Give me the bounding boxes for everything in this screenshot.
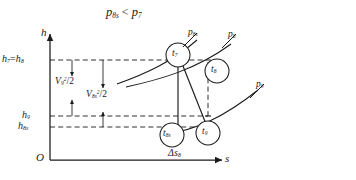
t7-subscript: 7 xyxy=(175,52,178,58)
v9-divisor: /2 xyxy=(66,76,74,86)
state-point-circle-t9 xyxy=(196,121,220,145)
h9-subscript: 9 xyxy=(27,114,30,120)
origin-label: O xyxy=(36,152,44,163)
process-line-t7-to-t9 xyxy=(181,61,206,124)
axis-group xyxy=(50,34,222,160)
p9-subscript: 9 xyxy=(261,83,264,89)
enthalpy-level-lines xyxy=(50,60,216,127)
p8-subscript: 8 xyxy=(233,33,236,39)
enthalpy-label-h7-equals-h8: h7=h8 xyxy=(2,54,24,65)
enthalpy-label-h8s: h8s xyxy=(18,121,28,132)
h8s-subscript: 8s xyxy=(23,125,28,131)
velocity-head-label-v9: V92/2 xyxy=(55,77,74,87)
title-pressure-relation: p8s<p7 xyxy=(106,6,142,20)
t8s-subscript: 8s xyxy=(166,132,171,138)
state-point-label-t8: t8 xyxy=(211,65,217,75)
title-left-subscript: 8s xyxy=(112,12,118,20)
velocity-head-label-v8s: V8s2/2 xyxy=(86,90,107,100)
title-relation: < xyxy=(119,5,132,19)
state-point-circle-t7 xyxy=(166,43,190,67)
v8s-divisor: /2 xyxy=(100,89,108,99)
h78-subscript-b: 8 xyxy=(21,58,24,64)
ds-symbol: Δs xyxy=(168,147,178,158)
entropy-increase-label: Δs8 xyxy=(168,148,181,159)
title-right-subscript: 7 xyxy=(138,12,142,20)
p8s-subscript: 8s xyxy=(193,31,198,37)
state-point-label-t8s: t8s xyxy=(163,129,171,139)
y-axis-label-h: h xyxy=(41,27,47,38)
enthalpy-label-h9: h9 xyxy=(22,110,30,121)
ds-subscript: 8 xyxy=(178,152,181,158)
isobar-label-p8s: p8s xyxy=(188,28,198,38)
h-s-diagram-figure: p8s<p7 h s O h7=h8 h9 h8s V92/2 V8s2/2 p… xyxy=(0,0,356,180)
x-axis-label-s: s xyxy=(225,153,229,164)
isobar-label-p8: p8 xyxy=(228,30,236,40)
state-point-label-t9: t9 xyxy=(202,127,208,137)
isobar-label-p9: p9 xyxy=(256,80,264,90)
t8-subscript: 8 xyxy=(214,68,217,74)
state-point-label-t7: t7 xyxy=(172,49,178,59)
t9-subscript: 9 xyxy=(205,130,208,136)
state-point-circle-t8 xyxy=(205,59,229,83)
